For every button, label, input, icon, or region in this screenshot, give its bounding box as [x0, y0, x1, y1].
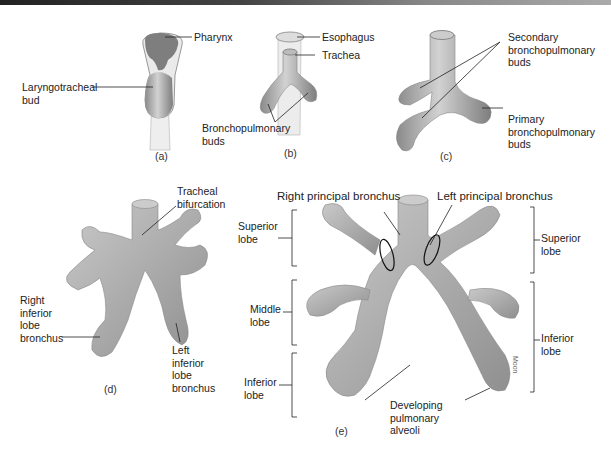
panel-d-drawing	[66, 200, 207, 357]
panel-b-drawing	[260, 32, 317, 135]
label-left-principal-bronchus: Left principal bronchus	[437, 190, 553, 203]
label-pharynx: Pharynx	[194, 31, 233, 44]
label-middle-lobe: Middle lobe	[250, 303, 281, 328]
label-trachea: Trachea	[322, 49, 360, 62]
label-developing-pulmonary-alveoli: Developing pulmonary alveoli	[390, 399, 443, 437]
caption-a: (a)	[155, 150, 168, 162]
label-right-superior-lobe: Superior lobe	[238, 220, 278, 245]
label-tracheal-bifurcation: Tracheal bifurcation	[177, 185, 225, 210]
panel-e-drawing	[307, 195, 519, 396]
label-bronchopulmonary-buds: Bronchopulmonary buds	[202, 122, 290, 147]
label-primary-buds: Primary bronchopulmonary buds	[508, 113, 595, 151]
label-laryngotracheal-bud: Laryngotracheal bud	[22, 81, 97, 106]
panel-c-drawing	[396, 31, 491, 151]
label-secondary-buds: Secondary bronchopulmonary buds	[508, 31, 595, 69]
label-esophagus: Esophagus	[322, 31, 375, 44]
caption-b: (b)	[284, 147, 297, 159]
label-right-inferior-lobe: Inferior lobe	[244, 376, 277, 401]
caption-d: (d)	[104, 383, 117, 395]
artist-credit: Moon	[512, 356, 519, 374]
caption-c: (c)	[440, 150, 452, 162]
label-left-superior-lobe: Superior lobe	[541, 232, 581, 257]
label-right-principal-bronchus: Right principal bronchus	[277, 190, 400, 203]
label-left-inferior-lobe: Inferior lobe	[541, 332, 574, 357]
caption-e: (e)	[335, 425, 348, 437]
label-left-inferior-lobe-bronchus: Left inferior lobe bronchus	[172, 344, 215, 394]
panel-a-drawing	[143, 33, 183, 150]
label-right-inferior-lobe-bronchus: Right inferior lobe bronchus	[20, 294, 63, 344]
